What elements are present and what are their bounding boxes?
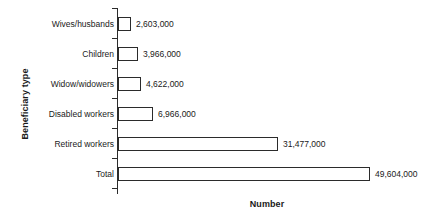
bar bbox=[118, 47, 138, 61]
category-label: Children bbox=[82, 46, 114, 62]
bar-value-label: 6,966,000 bbox=[158, 106, 196, 122]
category-label: Wives/husbands bbox=[52, 16, 114, 32]
category-label: Retired workers bbox=[54, 136, 114, 152]
bar-row: Widow/widowers4,622,000 bbox=[0, 76, 443, 92]
category-label: Widow/widowers bbox=[51, 76, 114, 92]
axis-tick bbox=[112, 8, 117, 9]
bar-value-label: 3,966,000 bbox=[143, 46, 181, 62]
bar-chart: Beneficiary type Wives/husbands2,603,000… bbox=[0, 0, 443, 220]
axis-tick bbox=[112, 38, 117, 39]
axis-tick bbox=[112, 68, 117, 69]
bar-row: Retired workers31,477,000 bbox=[0, 136, 443, 152]
bar-value-label: 31,477,000 bbox=[283, 136, 326, 152]
bar-row: Children3,966,000 bbox=[0, 46, 443, 62]
axis-tick bbox=[112, 158, 117, 159]
axis-tick bbox=[112, 98, 117, 99]
bar bbox=[118, 167, 370, 181]
bar bbox=[118, 137, 278, 151]
bar bbox=[118, 77, 141, 91]
axis-tick bbox=[112, 128, 117, 129]
bar-row: Total49,604,000 bbox=[0, 166, 443, 182]
bar-value-label: 49,604,000 bbox=[375, 166, 418, 182]
bar bbox=[118, 17, 131, 31]
bar bbox=[118, 107, 153, 121]
x-axis-title: Number bbox=[117, 199, 417, 209]
category-label: Total bbox=[96, 166, 114, 182]
axis-tick bbox=[112, 188, 117, 189]
plot-area: Wives/husbands2,603,000Children3,966,000… bbox=[0, 0, 443, 220]
bar-value-label: 2,603,000 bbox=[136, 16, 174, 32]
bar-value-label: 4,622,000 bbox=[146, 76, 184, 92]
bar-row: Wives/husbands2,603,000 bbox=[0, 16, 443, 32]
bar-row: Disabled workers6,966,000 bbox=[0, 106, 443, 122]
category-label: Disabled workers bbox=[49, 106, 114, 122]
